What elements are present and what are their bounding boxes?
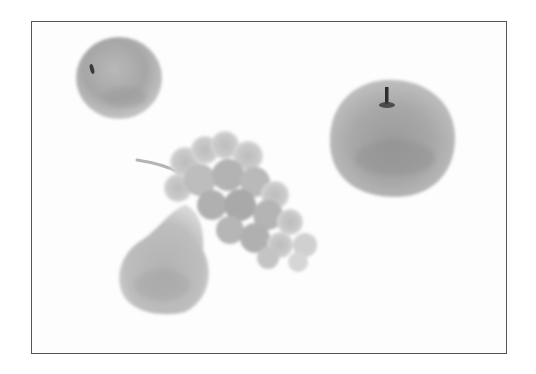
large-apple	[330, 80, 455, 197]
pear	[119, 205, 209, 314]
small-apple	[76, 37, 162, 119]
fruit-still-life	[0, 0, 536, 374]
